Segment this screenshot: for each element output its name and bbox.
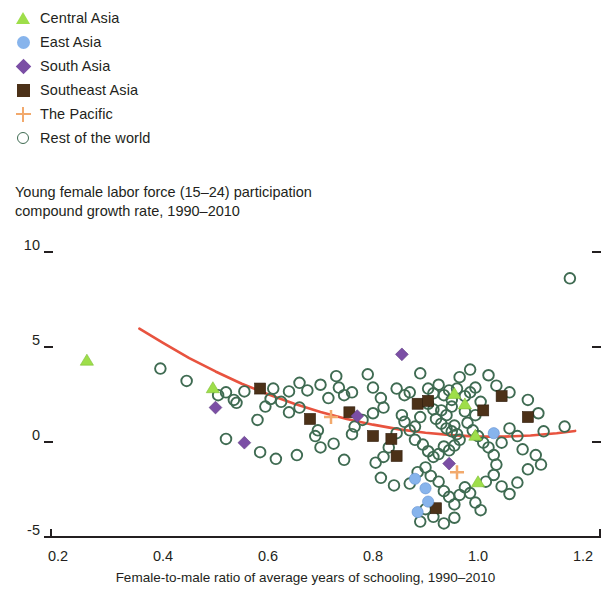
data-point (439, 441, 450, 452)
data-point (310, 431, 321, 442)
data-point (444, 492, 455, 503)
data-point (460, 482, 471, 493)
data-point (284, 386, 295, 397)
data-point (443, 457, 456, 470)
data-point (323, 393, 334, 404)
data-point (347, 429, 358, 440)
data-point (460, 406, 471, 417)
data-point (404, 387, 415, 398)
data-point (315, 379, 326, 390)
data-point (383, 442, 394, 453)
data-point (412, 467, 423, 478)
data-point (488, 470, 499, 481)
data-point (478, 405, 489, 416)
data-point (395, 348, 408, 361)
data-point (415, 412, 426, 423)
legend-item-central-asia: Central Asia (14, 6, 151, 30)
scatter-chart: Central Asia East Asia South Asia Southe… (0, 0, 611, 591)
data-point (458, 398, 471, 409)
data-point (368, 431, 379, 442)
y-tick-mark (44, 441, 53, 443)
data-point (449, 499, 460, 510)
data-point (292, 450, 303, 461)
data-point (512, 477, 523, 488)
data-point (475, 505, 486, 516)
data-point (436, 405, 447, 416)
data-point (448, 387, 461, 398)
data-point (238, 436, 251, 449)
data-point (465, 364, 476, 375)
chart-legend: Central Asia East Asia South Asia Southe… (14, 6, 151, 150)
data-point (252, 415, 263, 426)
data-point (391, 451, 402, 462)
data-point (349, 421, 360, 432)
series-east-asia (409, 428, 499, 518)
data-point (433, 379, 444, 390)
data-point (399, 417, 410, 428)
data-point (428, 452, 439, 463)
x-axis-left-cap (50, 529, 52, 538)
data-point (347, 387, 358, 398)
data-point (423, 383, 434, 394)
x-axis-right-cap (599, 529, 601, 538)
data-point (294, 402, 305, 413)
data-point (446, 426, 457, 437)
data-point (313, 425, 324, 436)
chart-title-line-1: Young female labor force (15–24) partici… (15, 183, 312, 202)
data-point (239, 386, 250, 397)
data-point (517, 444, 528, 455)
data-point (328, 438, 339, 449)
x-tick-label: 0.4 (153, 548, 173, 564)
data-point (450, 465, 464, 479)
y-tick-mark (44, 346, 53, 348)
data-point (446, 395, 457, 406)
y-tick-mark-right (592, 346, 601, 348)
data-point (294, 378, 305, 389)
data-point (420, 462, 431, 473)
data-point (504, 387, 515, 398)
data-point (284, 407, 295, 418)
data-point (491, 380, 502, 391)
data-point (504, 423, 515, 434)
data-point (491, 459, 502, 470)
data-point (391, 383, 402, 394)
data-point (389, 480, 400, 491)
data-point (410, 421, 421, 432)
data-point (206, 382, 219, 393)
data-point (415, 516, 426, 527)
data-point (439, 518, 450, 529)
data-point (305, 413, 316, 424)
data-point (260, 401, 271, 412)
trendline (139, 329, 575, 437)
data-point (565, 273, 576, 284)
data-point (446, 401, 457, 412)
series-southeast-asia (255, 383, 534, 514)
data-point (378, 452, 389, 463)
data-point (512, 431, 523, 442)
data-point (454, 372, 465, 383)
data-point (376, 473, 387, 484)
data-point (470, 382, 481, 393)
data-point (404, 425, 415, 436)
data-point (404, 478, 415, 489)
data-point (496, 437, 507, 448)
data-point (436, 418, 447, 429)
chart-title-line-2: compound growth rate, 1990–2010 (15, 202, 312, 221)
data-point (496, 481, 507, 492)
data-point (255, 447, 266, 458)
legend-label: Rest of the world (40, 126, 151, 150)
data-point (530, 450, 541, 461)
data-point (423, 496, 434, 507)
legend-item-southeast-asia: Southeast Asia (14, 78, 151, 102)
data-point (428, 388, 439, 399)
data-point (181, 376, 192, 387)
data-point (471, 476, 484, 487)
y-tick-label-5: 5 (6, 332, 40, 348)
ring-marker-icon (14, 126, 40, 150)
data-point (276, 397, 287, 408)
x-tick-label: 1.2 (573, 548, 593, 564)
data-point (444, 385, 455, 396)
y-tick-label-m5: -5 (6, 522, 40, 538)
data-point (449, 440, 460, 451)
data-point (533, 408, 544, 419)
